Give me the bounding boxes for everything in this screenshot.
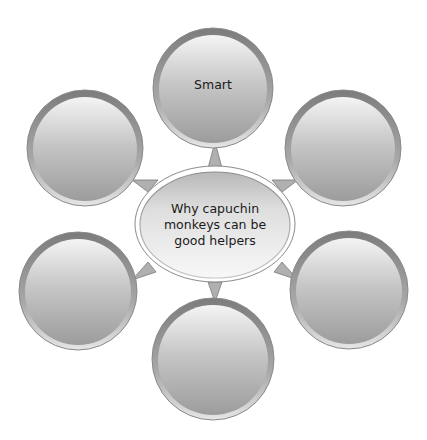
bubble-upper-right[interactable] <box>285 90 401 206</box>
bubble-top-label: Smart <box>163 77 263 93</box>
bubble-lower-right[interactable] <box>290 231 408 349</box>
center-label-line-3: good helpers <box>145 233 285 249</box>
center-bubble-label: Why capuchin monkeys can be good helpers <box>145 201 285 249</box>
bubble-bottom[interactable] <box>152 298 274 420</box>
center-label-line-2: monkeys can be <box>145 217 285 233</box>
bubble-upper-left[interactable] <box>27 90 143 206</box>
center-label-line-1: Why capuchin <box>145 201 285 217</box>
bubble-lower-left[interactable] <box>19 232 137 350</box>
